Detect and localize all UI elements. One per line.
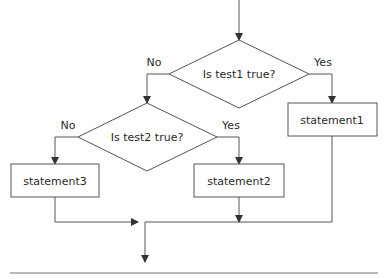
decision-test1-label: Is test1 true?: [203, 68, 276, 81]
edge-label-d1-no: No: [147, 56, 162, 69]
edge-label-d2-yes: Yes: [221, 119, 240, 132]
edge-label-d1-yes: Yes: [313, 56, 332, 69]
statement3-box: statement3: [11, 164, 99, 197]
decision-test2-label: Is test2 true?: [111, 131, 184, 144]
statement2-box: statement2: [194, 164, 284, 197]
statement1-box: statement1: [288, 103, 377, 136]
statement1-label: statement1: [300, 114, 364, 127]
edge-label-d2-no: No: [61, 119, 76, 132]
edge-d1-yes: [309, 74, 332, 103]
edge-d2-no: [55, 137, 78, 164]
edge-statement3-merge: [55, 197, 138, 222]
edge-d1-no: [147, 74, 169, 103]
flowchart: Is test1 true? Yes No statement1 Is test…: [0, 0, 388, 279]
statement3-label: statement3: [23, 175, 87, 188]
edge-d2-yes: [217, 137, 239, 164]
decision-test1: Is test1 true?: [169, 40, 309, 108]
statement2-label: statement2: [207, 175, 271, 188]
decision-test2: Is test2 true?: [78, 103, 217, 171]
